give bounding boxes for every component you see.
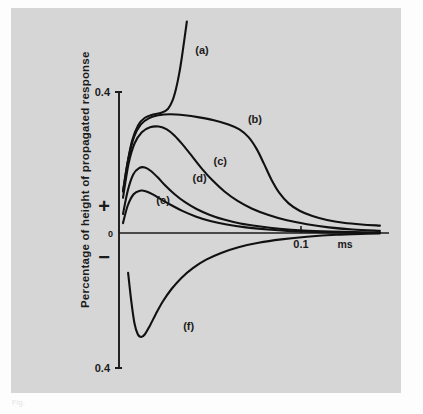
y-axis <box>115 92 122 368</box>
curve-group <box>123 22 380 337</box>
y-tick-label-bottom: 0.4 <box>95 362 111 374</box>
curve-label-c: (c) <box>214 155 228 167</box>
curve-label-e: (e) <box>156 194 170 206</box>
curve-label-a: (a) <box>195 44 209 56</box>
figure-caption: Fig. <box>12 399 25 406</box>
y-tick-label-zero: 0 <box>108 229 113 239</box>
figure-page: (a)(b)(c)(d)(e)(f) 0.4 0 0.4 + − 0.1 ms … <box>0 0 423 414</box>
y-axis-title: Percentage of height of propagated respo… <box>79 51 91 308</box>
curve-a <box>123 22 187 192</box>
y-tick-label-top: 0.4 <box>95 86 111 98</box>
chart-plot: (a)(b)(c)(d)(e)(f) 0.4 0 0.4 + − 0.1 ms … <box>11 8 401 393</box>
positive-sign-marker: + <box>98 195 110 217</box>
x-tick-label-0.1: 0.1 <box>293 238 308 250</box>
x-axis-unit-label: ms <box>337 238 352 250</box>
curve-label-f: (f) <box>183 320 194 332</box>
curve-label-d: (d) <box>193 172 207 184</box>
figure-panel: (a)(b)(c)(d)(e)(f) 0.4 0 0.4 + − 0.1 ms … <box>11 8 401 393</box>
curve-label-b: (b) <box>248 113 262 125</box>
negative-sign-marker: − <box>98 246 110 268</box>
